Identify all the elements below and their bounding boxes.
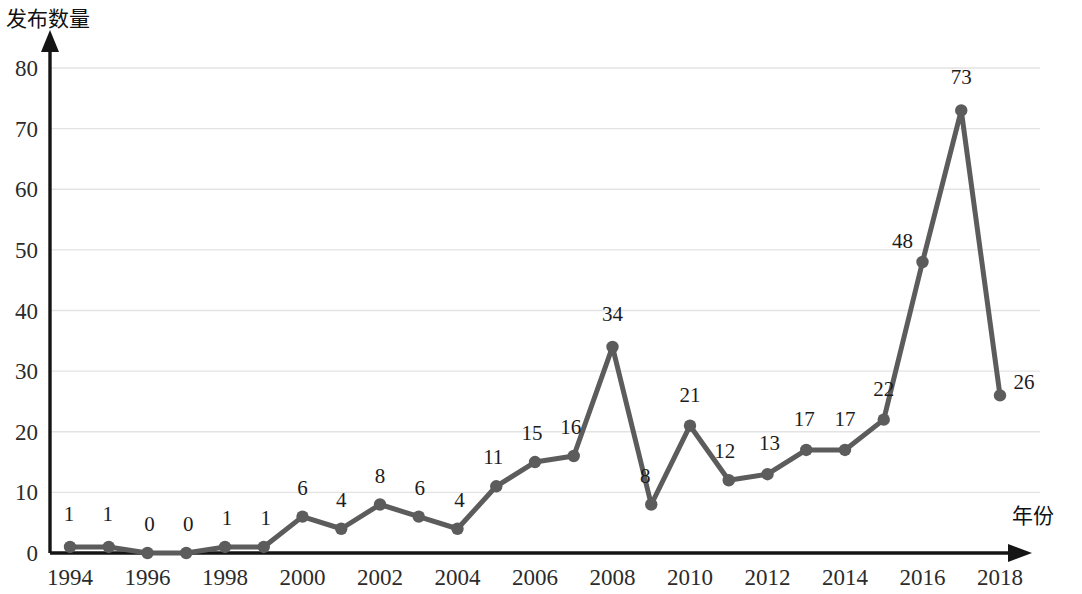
y-axis-tick-labels: 01020304050607080	[15, 56, 38, 566]
x-tick-label: 2016	[900, 565, 946, 590]
x-axis-title: 年份	[1012, 504, 1054, 528]
x-tick-label: 1998	[202, 565, 248, 590]
x-tick-label: 2014	[822, 565, 869, 590]
data-point-marker	[761, 468, 773, 480]
data-point-marker	[219, 541, 231, 553]
data-point-label: 48	[892, 229, 913, 253]
data-point-marker	[800, 444, 812, 456]
x-tick-label: 2004	[435, 565, 482, 590]
data-point-label: 16	[560, 415, 581, 439]
data-point-marker	[490, 480, 502, 492]
y-axis-arrow-icon	[41, 30, 59, 52]
x-tick-label: 2010	[667, 565, 713, 590]
data-point-label: 73	[951, 65, 972, 89]
line-chart: 01020304050607080 1994199619982000200220…	[0, 0, 1082, 594]
y-axis-title: 发布数量	[6, 7, 90, 31]
data-point-label: 34	[602, 302, 624, 326]
x-tick-label: 2012	[745, 565, 791, 590]
data-point-marker	[141, 547, 153, 559]
data-point-labels: 11001164864111516348211213171722487326	[64, 65, 1035, 536]
data-point-label: 17	[835, 407, 856, 431]
chart-canvas: 01020304050607080 1994199619982000200220…	[0, 0, 1082, 594]
y-tick-label: 30	[15, 359, 38, 384]
data-point-marker	[645, 498, 657, 510]
data-point-marker	[878, 413, 890, 425]
data-point-label: 0	[144, 512, 155, 536]
data-point-marker	[529, 456, 541, 468]
x-tick-label: 2002	[357, 565, 403, 590]
data-point-marker	[258, 541, 270, 553]
data-series-line	[70, 110, 1000, 553]
x-tick-label: 2008	[590, 565, 636, 590]
data-point-label: 1	[222, 506, 233, 530]
data-point-label: 13	[759, 431, 780, 455]
y-tick-label: 60	[15, 177, 38, 202]
data-point-label: 15	[522, 421, 543, 445]
y-axis	[41, 30, 59, 553]
x-tick-label: 2006	[512, 565, 558, 590]
y-tick-label: 40	[15, 299, 38, 324]
data-point-label: 12	[714, 439, 735, 463]
y-tick-label: 20	[15, 420, 38, 445]
data-point-label: 4	[336, 488, 347, 512]
data-point-marker	[451, 523, 463, 535]
gridlines	[50, 68, 1040, 492]
data-point-marker	[606, 341, 618, 353]
data-point-marker	[684, 419, 696, 431]
x-tick-label: 2018	[977, 565, 1023, 590]
data-point-label: 1	[64, 502, 75, 526]
data-point-marker	[994, 389, 1006, 401]
series-polyline	[70, 110, 1000, 553]
data-point-label: 1	[261, 506, 272, 530]
y-tick-label: 80	[15, 56, 38, 81]
x-axis-tick-labels: 1994199619982000200220042006200820102012…	[47, 565, 1023, 590]
data-point-label: 6	[297, 476, 308, 500]
data-point-marker	[374, 498, 386, 510]
data-point-marker	[568, 450, 580, 462]
data-point-marker	[955, 104, 967, 116]
data-point-marker	[413, 510, 425, 522]
data-point-marker	[916, 256, 928, 268]
data-point-label: 11	[483, 445, 503, 469]
x-tick-label: 1996	[125, 565, 171, 590]
data-point-label: 26	[1014, 370, 1035, 394]
data-point-label: 8	[375, 464, 386, 488]
data-point-label: 21	[680, 383, 701, 407]
y-tick-label: 0	[27, 541, 39, 566]
data-point-label: 17	[794, 407, 815, 431]
data-point-label: 22	[873, 377, 894, 401]
data-point-label: 4	[454, 488, 465, 512]
data-point-marker	[723, 474, 735, 486]
y-tick-label: 50	[15, 238, 38, 263]
y-tick-label: 10	[15, 480, 38, 505]
y-tick-label: 70	[15, 117, 38, 142]
x-tick-label: 1994	[47, 565, 94, 590]
data-point-marker	[64, 541, 76, 553]
data-point-marker	[296, 510, 308, 522]
data-point-marker	[839, 444, 851, 456]
data-point-marker	[335, 523, 347, 535]
data-point-label: 6	[415, 476, 426, 500]
x-axis-arrow-icon	[1008, 544, 1032, 562]
data-point-marker	[103, 541, 115, 553]
data-point-label: 0	[183, 512, 194, 536]
data-point-label: 1	[103, 502, 114, 526]
x-tick-label: 2000	[280, 565, 326, 590]
data-point-label: 8	[640, 464, 651, 488]
data-series-markers	[64, 104, 1006, 559]
data-point-marker	[180, 547, 192, 559]
